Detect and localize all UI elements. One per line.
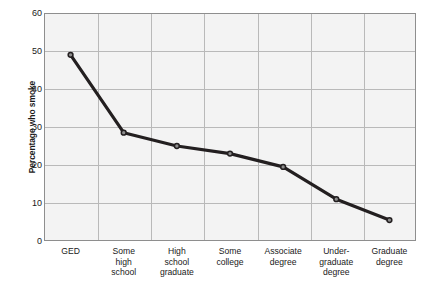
- smoking-by-education-line-chart: Percentage who smoke 0102030405060 GEDSo…: [0, 0, 434, 297]
- x-tick-label-line: Graduate: [351, 246, 427, 257]
- x-tick-label-line: degree: [351, 257, 427, 268]
- data-point-marker: [174, 144, 179, 149]
- data-point-marker: [228, 151, 233, 156]
- data-point-marker: [68, 52, 73, 57]
- data-point-marker: [387, 218, 392, 223]
- data-point-marker: [334, 197, 339, 202]
- series-line: [71, 55, 390, 220]
- data-point-marker: [281, 165, 286, 170]
- data-point-marker: [121, 130, 126, 135]
- x-tick-label: Graduatedegree: [351, 246, 427, 267]
- x-tick-label-line: graduate: [139, 267, 215, 278]
- x-tick-label-line: degree: [298, 267, 374, 278]
